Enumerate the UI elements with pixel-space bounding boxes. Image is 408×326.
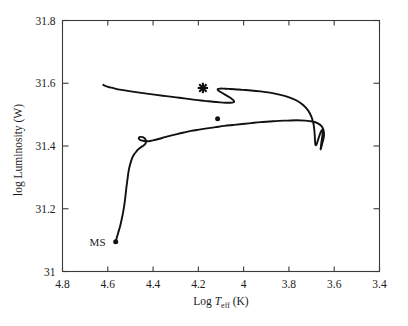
ms-start-point xyxy=(113,239,118,244)
blue-loop-tip-point xyxy=(215,116,220,121)
ms-annotation-label: MS xyxy=(90,236,106,248)
x-axis-title-unit: (K) xyxy=(230,295,249,308)
y-tick-label: 31.8 xyxy=(35,15,55,27)
y-tick-label: 31.4 xyxy=(35,140,55,152)
y-axis-tick-labels: 3131.231.431.631.8 xyxy=(35,15,55,278)
x-axis-title-subscript: eff xyxy=(221,301,230,310)
plot-svg: 4.84.64.44.243.83.63.4 3131.231.431.631.… xyxy=(0,0,408,326)
x-axis-tick-labels: 4.84.64.44.243.83.63.4 xyxy=(55,278,387,290)
x-axis-title-prefix: Log xyxy=(193,295,214,308)
x-tick-label: 3.8 xyxy=(282,278,297,290)
x-tick-label: 4.8 xyxy=(55,278,70,290)
x-tick-label: 4.2 xyxy=(191,278,206,290)
y-tick-label: 31.2 xyxy=(35,203,55,215)
x-tick-label: 4 xyxy=(241,278,247,290)
stellar-evolutionary-track xyxy=(103,85,324,242)
y-tick-label: 31.6 xyxy=(35,77,55,89)
x-axis-title: Log Teff (K) xyxy=(193,295,249,310)
x-tick-label: 4.6 xyxy=(101,278,116,290)
asterisk-core xyxy=(201,86,204,89)
x-axis-ticks xyxy=(63,21,380,272)
hr-diagram-figure: 4.84.64.44.243.83.63.4 3131.231.431.631.… xyxy=(0,0,408,326)
x-tick-label: 3.6 xyxy=(327,278,342,290)
observed-star xyxy=(198,83,208,93)
plot-markers xyxy=(113,83,220,244)
x-tick-label: 4.4 xyxy=(146,278,161,290)
plot-frame xyxy=(63,21,380,272)
y-tick-label: 31 xyxy=(44,266,56,278)
y-axis-ticks xyxy=(63,21,380,272)
x-tick-label: 3.4 xyxy=(372,278,387,290)
y-axis-title: log Luminosity (W) xyxy=(12,104,25,196)
